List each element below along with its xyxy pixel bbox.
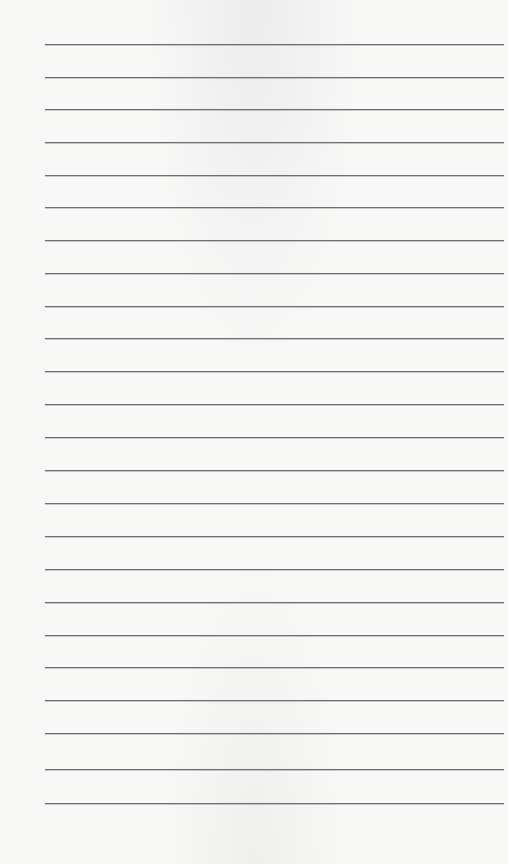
ruled-line bbox=[45, 240, 504, 241]
ruled-line bbox=[45, 142, 504, 143]
ruled-line bbox=[45, 503, 504, 504]
ruled-line bbox=[45, 437, 504, 438]
ruled-line bbox=[45, 803, 504, 804]
notepad-page bbox=[0, 0, 508, 864]
ruled-line bbox=[45, 470, 504, 471]
ruled-line bbox=[45, 536, 504, 537]
ruled-line bbox=[45, 404, 504, 405]
ruled-line bbox=[45, 569, 504, 570]
ruled-line bbox=[45, 109, 504, 110]
ruled-line bbox=[45, 44, 504, 45]
ruled-line bbox=[45, 273, 504, 274]
ruled-line bbox=[45, 635, 504, 636]
ruled-line bbox=[45, 175, 504, 176]
ruled-line bbox=[45, 667, 504, 668]
ruled-line bbox=[45, 77, 504, 78]
ruled-line bbox=[45, 733, 504, 734]
ruled-line bbox=[45, 338, 504, 339]
ruled-line bbox=[45, 207, 504, 208]
ruled-line bbox=[45, 602, 504, 603]
ruled-line bbox=[45, 306, 504, 307]
ruled-line bbox=[45, 769, 504, 770]
ruled-line bbox=[45, 371, 504, 372]
ruled-line bbox=[45, 700, 504, 701]
